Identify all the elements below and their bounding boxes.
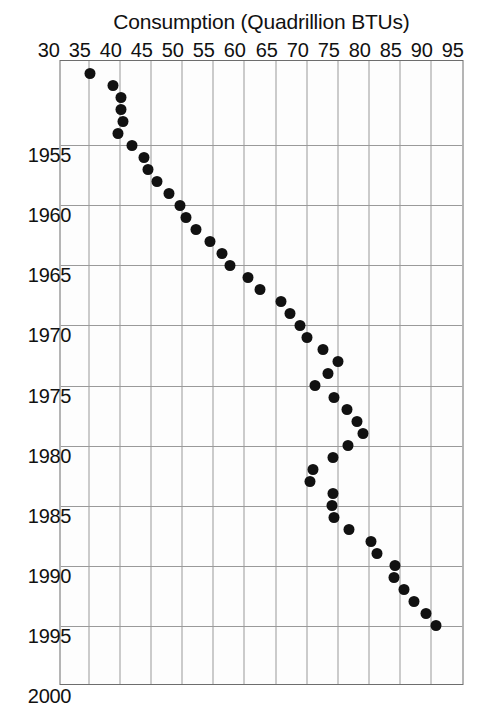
- data-point: [309, 380, 320, 391]
- data-point: [224, 260, 235, 271]
- data-point: [326, 500, 337, 511]
- data-point: [357, 428, 368, 439]
- data-point: [115, 104, 126, 115]
- year-tick-label-1975: 1975: [27, 385, 70, 408]
- gridline-value-45: [150, 61, 151, 684]
- gridline-value-70: [306, 61, 307, 684]
- data-point: [107, 80, 118, 91]
- gridline-value-55: [212, 61, 213, 684]
- data-point: [317, 344, 328, 355]
- year-tick-label-1960: 1960: [27, 204, 70, 227]
- value-tick-label-95: 95: [425, 39, 463, 62]
- gridline-value-50: [181, 61, 182, 684]
- data-point: [351, 416, 362, 427]
- data-point: [151, 176, 162, 187]
- data-point: [138, 152, 149, 163]
- data-point: [301, 332, 312, 343]
- data-point: [341, 404, 352, 415]
- data-point: [190, 224, 201, 235]
- data-point: [304, 476, 315, 487]
- gridline-value-60: [243, 61, 244, 684]
- data-point: [408, 596, 419, 607]
- year-tick-label-1970: 1970: [27, 324, 70, 347]
- data-point: [115, 92, 126, 103]
- gridline-value-40: [119, 61, 120, 684]
- data-point: [117, 116, 128, 127]
- data-point: [343, 524, 354, 535]
- data-point: [254, 284, 265, 295]
- gridline-value-80: [368, 61, 369, 684]
- data-point: [388, 572, 399, 583]
- data-point: [142, 164, 153, 175]
- data-point: [389, 560, 400, 571]
- value-axis-title: Consumption (Quadrillion BTUs): [113, 10, 409, 34]
- data-point: [112, 128, 123, 139]
- data-point: [307, 464, 318, 475]
- data-point: [163, 188, 174, 199]
- data-point: [242, 272, 253, 283]
- data-point: [322, 368, 333, 379]
- data-point: [430, 620, 441, 631]
- year-tick-label-1995: 1995: [27, 625, 70, 648]
- data-point: [365, 536, 376, 547]
- data-point: [371, 548, 382, 559]
- year-tick-label-1985: 1985: [27, 505, 70, 528]
- data-point: [342, 440, 353, 451]
- data-point: [328, 392, 339, 403]
- data-point: [216, 248, 227, 259]
- plot-area: [59, 60, 463, 685]
- data-point: [84, 68, 95, 79]
- data-point: [180, 212, 191, 223]
- year-tick-label-1965: 1965: [27, 264, 70, 287]
- data-point: [275, 296, 286, 307]
- year-tick-label-2000: 2000: [27, 685, 70, 708]
- data-point: [294, 320, 305, 331]
- gridline-value-75: [337, 61, 338, 684]
- year-tick-label-1955: 1955: [27, 144, 70, 167]
- year-tick-label-1990: 1990: [27, 565, 70, 588]
- data-point: [327, 452, 338, 463]
- data-point: [174, 200, 185, 211]
- data-point: [126, 140, 137, 151]
- year-tick-label-1980: 1980: [27, 445, 70, 468]
- chart-canvas: Total Energy Consumption in the U.S. Con…: [0, 0, 489, 716]
- data-point: [398, 584, 409, 595]
- data-point: [328, 512, 339, 523]
- gridline-value-65: [275, 61, 276, 684]
- data-point: [204, 236, 215, 247]
- gridline-value-35: [88, 61, 89, 684]
- data-point: [327, 488, 338, 499]
- chart-figure: Total Energy Consumption in the U.S. Con…: [0, 0, 489, 716]
- data-point: [284, 308, 295, 319]
- gridline-value-90: [430, 61, 431, 684]
- data-point: [332, 356, 343, 367]
